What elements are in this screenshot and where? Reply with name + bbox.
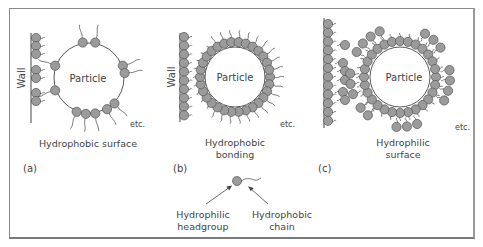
headgroup-circle (348, 90, 357, 99)
headgroup-circle (179, 102, 188, 111)
hydrophobic-chain (230, 30, 232, 38)
headgroup-circle (358, 39, 367, 48)
wall-label-a: Wall (16, 68, 27, 89)
hydrophobic-chain (212, 111, 216, 118)
hydrophobic-chain (274, 76, 284, 77)
headgroup-circle (429, 35, 438, 44)
headgroup-circle (323, 28, 332, 37)
etc-label-c: etc. (455, 123, 470, 132)
caption-b-line2: bonding (216, 149, 255, 160)
headgroup-circle (323, 81, 332, 90)
caption-a: Hydrophobic surface (39, 138, 137, 149)
headgroup-circle (78, 38, 87, 47)
hydrophobic-chain (96, 25, 98, 39)
headgroup-circle (323, 63, 332, 72)
headgroup-circle (363, 111, 372, 120)
headgroup-circle (102, 105, 111, 114)
headgroup-circle (323, 116, 332, 125)
headgroup-circle (179, 32, 188, 41)
headgroup-circle (375, 27, 384, 36)
chain-label-2: chain (269, 221, 295, 232)
hydrophobic-chain (109, 113, 116, 125)
headgroup-circle (81, 109, 90, 118)
headgroup-label-2: headgroup (177, 221, 228, 232)
chain-arrow (250, 188, 268, 204)
headgroup-arrowhead (227, 186, 233, 191)
headgroup-circle (323, 19, 332, 28)
headgroup-circle (436, 43, 445, 52)
hydrophobic-chain (261, 106, 268, 113)
panel-tag-a: (a) (23, 163, 37, 174)
particle-label-b: Particle (217, 72, 254, 83)
wall-label-b: Wall (166, 67, 177, 88)
hydrophobic-chain (127, 60, 140, 65)
hydrophobic-chain (273, 67, 283, 70)
headgroup-circle (72, 107, 81, 116)
particle-label-a: Particle (70, 73, 107, 84)
headgroup-circle (31, 73, 40, 82)
hydrophobic-chain (71, 116, 76, 129)
hydrophobic-chain (255, 36, 259, 43)
headgroup-circle (31, 49, 40, 58)
headgroup-circle (356, 103, 365, 112)
hydrophobic-chain (220, 114, 222, 122)
hydrophobic-chain (96, 117, 99, 131)
headgroup-circle (323, 55, 332, 64)
headgroup-circle (366, 32, 375, 41)
headgroup-circle (445, 76, 454, 85)
legend: Hydrophilic headgroup Hydrophobic chain (176, 177, 312, 233)
headgroup-label-1: Hydrophilic (176, 209, 230, 220)
legend-chain-icon (242, 178, 262, 181)
etc-label-a: etc. (130, 120, 145, 129)
headgroup-circle (323, 37, 332, 46)
hydrophobic-chain (271, 93, 280, 97)
headgroup-circle (91, 109, 100, 118)
headgroup-circle (445, 65, 454, 74)
hydrophobic-chain (211, 36, 215, 43)
headgroup-circle (443, 86, 452, 95)
chain-label-1: Hydrophobic (252, 209, 312, 220)
hydrophobic-chain (239, 30, 240, 38)
headgroup-circle (323, 90, 332, 99)
adsorption-diagram: Particle Wall etc. Hydrophobic surface (… (0, 0, 483, 247)
headgroup-circle (179, 76, 188, 85)
headgroup-circle (179, 50, 188, 59)
headgroup-circle (340, 95, 349, 104)
headgroup-circle (51, 61, 60, 70)
hydrophobic-chain (247, 114, 250, 122)
headgroup-circle (51, 86, 60, 95)
headgroup-circle (265, 65, 274, 74)
headgroup-circle (340, 40, 349, 49)
hydrophobic-chain (129, 70, 143, 72)
legend-headgroup-icon (233, 177, 242, 186)
hydrophobic-chain (273, 85, 283, 87)
hydrophobic-chain (117, 106, 127, 116)
headgroup-arrow (206, 187, 230, 204)
caption-c-line1: Hydrophilic (376, 137, 430, 148)
headgroup-circle (179, 111, 188, 120)
hydrophobic-chain (38, 60, 51, 65)
headgroup-circle (402, 122, 411, 131)
headgroup-circle (420, 29, 429, 38)
hydrophobic-chain (271, 57, 280, 61)
headgroup-circle (323, 72, 332, 81)
caption-c-line2: surface (385, 149, 420, 160)
headgroup-circle (179, 93, 188, 102)
headgroup-circle (413, 119, 422, 128)
headgroup-circle (323, 107, 332, 116)
headgroup-circle (323, 46, 332, 55)
headgroup-circle (179, 67, 188, 76)
headgroup-circle (179, 85, 188, 94)
panel-tag-b: (b) (173, 163, 187, 174)
hydrophobic-chain (239, 116, 241, 124)
headgroup-circle (346, 69, 355, 78)
hydrophobic-chain (84, 118, 85, 132)
headgroup-circle (346, 79, 355, 88)
hydrophobic-chain (220, 32, 223, 40)
hydrophobic-chain (267, 100, 275, 106)
hydrophobic-chain (79, 25, 82, 39)
headgroup-circle (430, 64, 439, 73)
headgroup-circle (440, 96, 449, 105)
headgroup-circle (323, 99, 332, 108)
headgroup-circle (179, 41, 188, 50)
